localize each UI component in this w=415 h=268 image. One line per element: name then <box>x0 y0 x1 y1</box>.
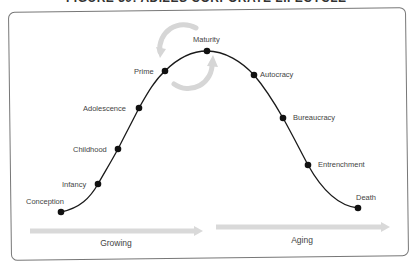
stage-dot <box>95 181 102 188</box>
stage-label: Maturity <box>193 35 220 44</box>
stage-label: Childhood <box>73 145 107 154</box>
lifecycle-diagram: GrowingAging ConceptionInfancyChildhoodA… <box>0 0 415 268</box>
stage-label: Autocracy <box>260 70 294 79</box>
stage-dot <box>58 209 65 216</box>
stage-dot <box>355 205 362 212</box>
stage-dot <box>136 105 143 112</box>
stage-dot <box>280 115 287 122</box>
stage-label: Entrenchment <box>318 160 366 169</box>
stage-dot <box>251 72 258 79</box>
stage-label: Conception <box>26 197 64 206</box>
stage-dot <box>162 68 169 75</box>
stage-label: Prime <box>134 67 154 76</box>
phase-label: Aging <box>291 235 313 245</box>
stage-dot <box>204 48 211 55</box>
phase-arrow-shaft <box>30 229 195 234</box>
stage-dot <box>305 162 312 169</box>
stage-label: Infancy <box>62 180 86 189</box>
stage-label: Adolescence <box>83 104 126 113</box>
stage-label: Bureaucracy <box>293 113 335 122</box>
phase-label: Growing <box>100 238 132 248</box>
stage-label: Death <box>356 193 376 202</box>
diagram-frame <box>8 8 408 261</box>
stage-dot <box>115 146 122 153</box>
phase-arrow-shaft <box>216 225 382 230</box>
